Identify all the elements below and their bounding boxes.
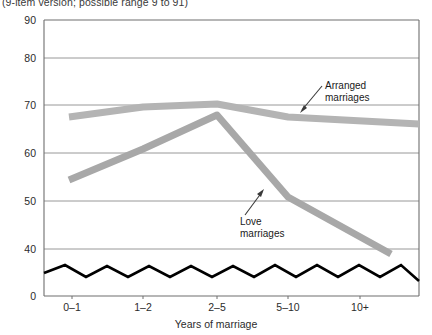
series-arranged-marriages <box>69 104 419 124</box>
x-tick-10-plus: 10+ <box>330 302 390 313</box>
annotation-arranged-line2: marriages <box>325 92 369 104</box>
annotation-love-line1: Love <box>240 216 284 228</box>
x-axis-label: Years of marriage <box>136 318 296 330</box>
y-tick-90: 90 <box>6 15 36 25</box>
y-tick-70: 70 <box>6 100 36 110</box>
chart-container: (9-item version; possible range 9 to 91) <box>0 0 432 335</box>
y-tick-40: 40 <box>6 244 36 254</box>
x-tick-2-5: 2–5 <box>187 302 247 313</box>
annotation-arranged-marriages: Arranged marriages <box>325 80 369 103</box>
chart-svg <box>0 0 432 335</box>
annotation-love-line2: marriages <box>240 228 284 240</box>
love-annotation-arrow <box>245 189 264 215</box>
x-tick-5-10: 5–10 <box>258 302 318 313</box>
plot-frame <box>44 20 419 296</box>
x-tick-0-1: 0–1 <box>42 302 102 313</box>
y-tick-0: 0 <box>6 291 36 301</box>
annotation-arranged-line1: Arranged <box>325 80 369 92</box>
arranged-annotation-arrow <box>300 86 322 113</box>
series-love-marriages <box>69 115 391 254</box>
x-tick-1-2: 1–2 <box>113 302 173 313</box>
y-tick-80: 80 <box>6 53 36 63</box>
series-baseline-zigzag <box>44 265 419 281</box>
y-tick-60: 60 <box>6 148 36 158</box>
y-tick-50: 50 <box>6 196 36 206</box>
annotation-love-marriages: Love marriages <box>240 216 284 239</box>
